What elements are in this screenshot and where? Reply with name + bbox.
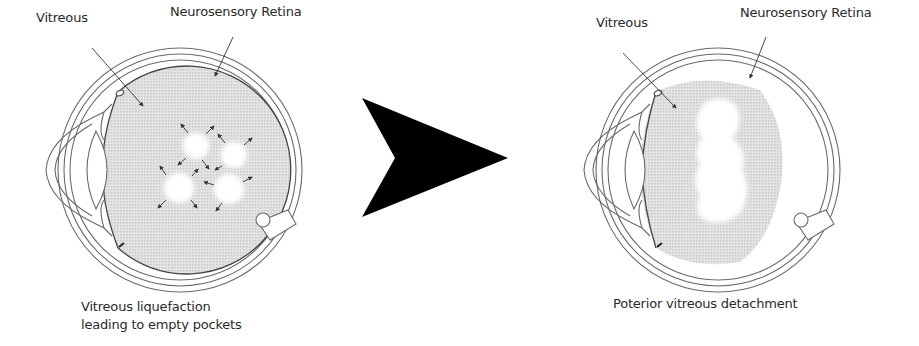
transition-arrow-icon xyxy=(362,98,508,217)
cornea-outer xyxy=(46,118,92,222)
iris-lower xyxy=(101,200,104,228)
iris-upper xyxy=(101,112,104,140)
eye-detachment xyxy=(584,48,840,292)
eye-liquefaction xyxy=(46,48,302,292)
label-vitreous-right: Vitreous xyxy=(596,14,648,31)
caption-right: Poterior vitreous detachment xyxy=(613,294,797,313)
caption-left-line1: Vitreous liquefaction xyxy=(81,297,211,316)
lens xyxy=(625,131,645,209)
label-retina-left: Neurosensory Retina xyxy=(170,3,301,20)
caption-left-line2: leading to empty pockets xyxy=(81,315,242,334)
label-retina-right: Neurosensory Retina xyxy=(740,4,871,21)
label-vitreous-left: Vitreous xyxy=(36,9,88,26)
